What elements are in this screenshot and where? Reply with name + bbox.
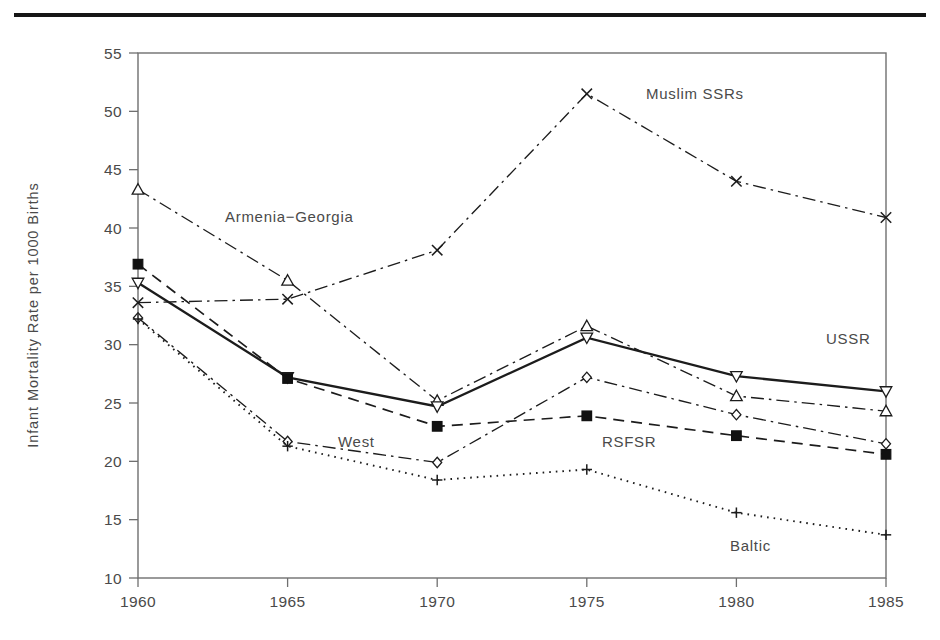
series-line bbox=[138, 318, 886, 463]
data-point-marker-square-filled bbox=[283, 374, 293, 384]
series-rsfsr bbox=[133, 259, 891, 459]
y-axis-tick-label: 40 bbox=[104, 220, 122, 237]
data-point-marker-diamond bbox=[582, 372, 591, 382]
y-axis-tick-label: 30 bbox=[104, 336, 122, 353]
data-point-marker-square-filled bbox=[133, 259, 143, 269]
data-point-marker-x bbox=[582, 89, 592, 99]
x-axis-tick-label: 1965 bbox=[270, 593, 306, 610]
y-axis-title: Infant Mortality Rate per 1000 Births bbox=[25, 182, 41, 447]
x-axis-tick-label: 1980 bbox=[718, 593, 754, 610]
series-label-rsfsr: RSFSR bbox=[602, 433, 656, 450]
chart-figure: 10152025303540455055 1960196519701975198… bbox=[0, 0, 940, 640]
x-axis-tick-label: 1975 bbox=[569, 593, 605, 610]
y-axis-tick-label: 55 bbox=[104, 45, 122, 62]
data-point-marker-triangle-up bbox=[132, 184, 144, 194]
data-point-marker-square-filled bbox=[732, 431, 742, 441]
x-axis-tick-group: 196019651970197519801985 bbox=[120, 578, 904, 610]
data-point-marker-diamond bbox=[433, 457, 442, 467]
series-muslim-ssrs bbox=[133, 89, 891, 308]
data-point-marker-plus bbox=[432, 475, 442, 485]
data-point-marker-triangle-down bbox=[431, 402, 443, 412]
plot-frame bbox=[138, 53, 886, 578]
data-point-marker-square-filled bbox=[432, 422, 442, 432]
series-label-muslim-ssrs: Muslim SSRs bbox=[646, 85, 744, 102]
series-line bbox=[138, 319, 886, 535]
data-point-marker-square-filled bbox=[582, 411, 592, 421]
y-axis-tick-label: 15 bbox=[104, 511, 122, 528]
series-label-baltic: Baltic bbox=[730, 537, 771, 554]
y-axis-tick-label: 35 bbox=[104, 278, 122, 295]
x-axis-tick-label: 1970 bbox=[419, 593, 455, 610]
series-label-armenia-georgia: Armenia−Georgia bbox=[225, 208, 353, 225]
data-point-marker-diamond bbox=[732, 409, 741, 419]
data-point-marker-plus bbox=[731, 507, 741, 517]
y-axis-tick-group: 10152025303540455055 bbox=[104, 45, 138, 587]
series-label-west: West bbox=[338, 433, 375, 450]
series-ussr bbox=[132, 278, 892, 412]
x-axis-tick-label: 1985 bbox=[868, 593, 904, 610]
y-axis-tick-label: 25 bbox=[104, 395, 122, 412]
data-series-layer bbox=[132, 89, 892, 540]
y-axis-tick-label: 50 bbox=[104, 103, 122, 120]
data-point-marker-plus bbox=[881, 530, 891, 540]
page-root: 10152025303540455055 1960196519701975198… bbox=[0, 0, 940, 640]
data-point-marker-triangle-up bbox=[282, 275, 294, 285]
data-point-marker-square-filled bbox=[881, 450, 891, 460]
line-chart-svg: 10152025303540455055 1960196519701975198… bbox=[0, 0, 940, 640]
data-point-marker-plus bbox=[582, 464, 592, 474]
data-point-marker-triangle-up bbox=[581, 320, 593, 330]
y-axis-tick-label: 20 bbox=[104, 453, 122, 470]
data-point-marker-plus bbox=[133, 314, 143, 324]
data-point-marker-triangle-up bbox=[731, 390, 743, 400]
data-point-marker-x bbox=[432, 245, 442, 255]
data-point-marker-triangle-down bbox=[132, 278, 144, 288]
x-axis-tick-label: 1960 bbox=[120, 593, 156, 610]
data-point-marker-x bbox=[731, 176, 741, 186]
series-line bbox=[138, 94, 886, 303]
series-line bbox=[138, 264, 886, 454]
series-west bbox=[134, 313, 891, 468]
series-label-ussr: USSR bbox=[826, 330, 870, 347]
data-point-marker-diamond bbox=[882, 439, 891, 449]
y-axis-tick-label: 10 bbox=[104, 570, 122, 587]
y-axis-tick-label: 45 bbox=[104, 161, 122, 178]
series-line bbox=[138, 283, 886, 407]
